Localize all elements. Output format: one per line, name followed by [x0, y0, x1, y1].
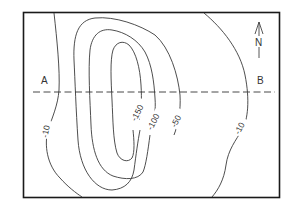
north-label: N	[255, 37, 262, 48]
contour-west-minus-10	[46, 13, 82, 197]
contour-east-minus-10	[204, 13, 248, 197]
contour-label-west: -10	[40, 124, 52, 138]
north-arrow-icon: N	[254, 22, 264, 58]
contour-minus-150	[111, 42, 141, 160]
section-label-a: A	[41, 75, 48, 86]
section-label-b: B	[257, 75, 264, 86]
contour-map: A B N -10 -50 -100 -150 -10	[0, 0, 297, 213]
map-frame	[24, 13, 280, 198]
